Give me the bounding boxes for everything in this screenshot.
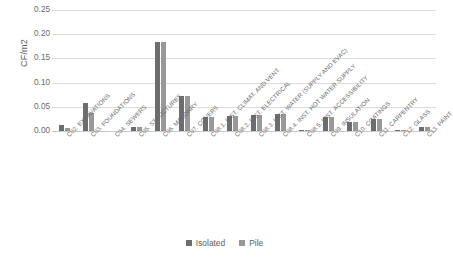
legend-swatch-icon <box>239 240 245 246</box>
y-axis-tick-label: 0.05 <box>4 103 50 111</box>
bar-group <box>52 10 76 131</box>
legend-item-isolated[interactable]: Isolated <box>186 238 225 248</box>
y-axis-tick-label: 0.10 <box>4 79 50 87</box>
y-axis-tick-label: 0.00 <box>4 127 50 135</box>
y-axis-tick-label: 0.20 <box>4 30 50 38</box>
y-axis-tick-label: 0.25 <box>4 6 50 14</box>
chart-legend: IsolatedPile <box>0 238 449 248</box>
legend-label: Isolated <box>196 238 225 248</box>
y-axis-ticks: 0.250.200.150.100.050.00 <box>0 10 50 131</box>
x-axis-labels: C02. EXCAVATIONSC03. FOUNDATIONSC04. SEW… <box>52 131 436 231</box>
legend-item-pile[interactable]: Pile <box>239 238 263 248</box>
legend-swatch-icon <box>186 240 192 246</box>
y-axis-tick-label: 0.15 <box>4 54 50 62</box>
legend-label: Pile <box>249 238 263 248</box>
